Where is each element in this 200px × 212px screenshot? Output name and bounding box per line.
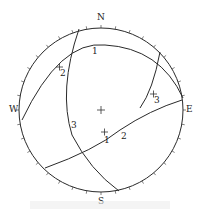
great-circle-1-label: 1 [92,47,98,56]
center-cross-icon [97,106,105,114]
great-circle-2-label: 2 [121,132,127,141]
great-circle-3-label: 3 [71,121,77,130]
pole-1-label: 1 [104,136,110,145]
west-label: W [9,105,18,114]
great-circle-2 [45,100,182,168]
east-label: E [186,105,193,114]
stereonet-diagram [0,0,200,212]
pole-3-label: 3 [154,96,160,105]
pole-2-label: 2 [60,69,66,78]
north-label: N [97,13,105,22]
figure-caption-faded [30,201,170,209]
